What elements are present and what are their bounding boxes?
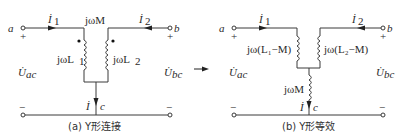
minus-a-label: − bbox=[19, 101, 25, 113]
current-i1-sub: 1 bbox=[54, 15, 60, 27]
circuit-diagram: a + b + − − İ 1 İ 2 jωM jωL 1 jωL 2 U̇ a… bbox=[0, 0, 403, 139]
caption-b: (b) Y形等效 bbox=[282, 120, 335, 132]
coil-l2-minus-m-label: jω(L₂−M) bbox=[323, 43, 368, 56]
voltage-ac-sub: ac bbox=[26, 68, 37, 80]
wire-a-top-right bbox=[108, 28, 168, 40]
plus-a-label: + bbox=[20, 30, 26, 42]
terminal-a-label-b: a bbox=[219, 22, 225, 34]
arrow-right-icon bbox=[202, 67, 209, 72]
current-i2-label: İ bbox=[138, 13, 144, 25]
coil-l1-sub: 1 bbox=[79, 55, 85, 67]
terminal-a-bottom-node-b bbox=[232, 113, 236, 117]
minus-b-label-b: − bbox=[379, 101, 385, 113]
current-i2-label-b: İ bbox=[351, 13, 357, 25]
inductor-l2-minus-m bbox=[318, 36, 320, 68]
current-arrow-ic bbox=[94, 98, 99, 106]
coil-l2-label: jωL bbox=[112, 53, 130, 65]
terminal-b-label: b bbox=[174, 22, 180, 34]
terminal-b-bottom-node-b bbox=[381, 113, 385, 117]
current-i2-sub: 2 bbox=[145, 15, 151, 27]
inductor-l2 bbox=[106, 40, 108, 82]
wire-a-top-left bbox=[25, 28, 84, 40]
voltage-ac-sub-b: ac bbox=[237, 68, 248, 80]
diagram-a: a + b + − − İ 1 İ 2 jωM jωL 1 jωL 2 U̇ a… bbox=[8, 13, 183, 132]
terminal-a-bottom-node bbox=[21, 113, 25, 117]
current-i2-sub-b: 2 bbox=[358, 15, 364, 27]
diagram-b: a + b + − − İ 1 İ 2 jω(L₁−M) jω(L₂−M) jω… bbox=[219, 13, 395, 132]
terminal-c-label: c bbox=[100, 100, 105, 112]
terminal-a-label: a bbox=[8, 22, 14, 34]
plus-b-label-b: + bbox=[380, 30, 386, 42]
current-arrow-ic-b bbox=[307, 101, 312, 109]
terminal-b-label-b: b bbox=[387, 22, 393, 34]
inductor-l1-minus-m bbox=[297, 36, 299, 68]
terminal-b-bottom-node bbox=[168, 113, 172, 117]
polarity-dot-l1 bbox=[77, 39, 80, 42]
minus-b-label: − bbox=[166, 101, 172, 113]
caption-a: (a) Y形连接 bbox=[68, 120, 121, 132]
current-i1-sub-b: 1 bbox=[265, 15, 271, 27]
plus-b-label: + bbox=[167, 30, 173, 42]
coil-l1-label: jωL bbox=[56, 53, 74, 65]
coil-l2-sub: 2 bbox=[135, 55, 141, 67]
wire-b-top-right bbox=[320, 28, 381, 36]
polarity-dot-l2 bbox=[111, 39, 114, 42]
minus-a-label-b: − bbox=[230, 101, 236, 113]
current-i1-label-b: İ bbox=[258, 13, 264, 25]
inductor-m bbox=[309, 68, 311, 115]
mutual-inductance-label: jωM bbox=[84, 14, 105, 26]
transform-arrow bbox=[194, 67, 209, 72]
plus-a-label-b: + bbox=[231, 30, 237, 42]
wire-b-top-left bbox=[236, 28, 297, 36]
coil-m-label: jωM bbox=[283, 83, 304, 95]
current-ic-label-b: İ bbox=[299, 101, 305, 113]
coil-l1-minus-m-label: jω(L₁−M) bbox=[246, 43, 291, 56]
voltage-bc-sub-b: bc bbox=[384, 68, 395, 80]
current-ic-label: İ bbox=[85, 100, 91, 112]
current-i1-label: İ bbox=[47, 13, 53, 25]
voltage-bc-sub: bc bbox=[172, 68, 183, 80]
terminal-c-label-b: c bbox=[313, 101, 318, 113]
